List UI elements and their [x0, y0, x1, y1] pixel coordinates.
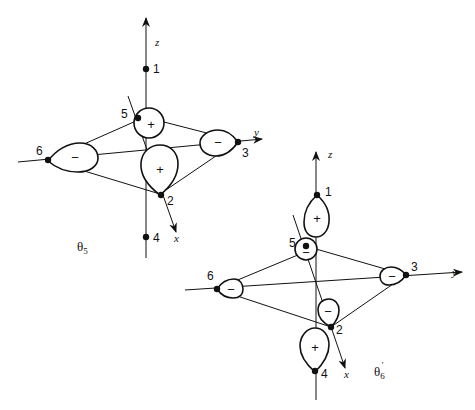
svg-text:5: 5: [289, 236, 296, 250]
diagram-theta6-prime: z y x + − − −: [185, 148, 462, 400]
diagram-title-theta6-prime: θ6': [374, 360, 385, 381]
svg-text:+: +: [147, 117, 155, 132]
svg-text:4: 4: [153, 231, 160, 245]
svg-text:3: 3: [242, 146, 249, 160]
svg-text:6: 6: [207, 269, 214, 283]
diagram-title-theta5: θ5: [77, 239, 88, 256]
x-axis-label: x: [173, 232, 179, 244]
svg-text:+: +: [311, 340, 319, 355]
node-4: 4: [312, 367, 328, 381]
edges: [216, 249, 406, 327]
svg-text:6: 6: [36, 144, 43, 158]
lobe-3: −: [380, 267, 406, 285]
svg-text:1: 1: [153, 62, 160, 76]
node-2: 2: [158, 192, 174, 208]
orbital-diagrams: z y x + + − −: [0, 0, 475, 410]
svg-text:3: 3: [411, 260, 418, 274]
svg-text:−: −: [388, 269, 396, 284]
svg-text:−: −: [324, 304, 332, 319]
node-2: 2: [328, 323, 343, 337]
svg-text:4: 4: [321, 367, 328, 381]
lobe-1: +: [304, 195, 329, 237]
svg-text:+: +: [156, 162, 164, 177]
diagram-theta5: z y x + + − −: [18, 18, 262, 258]
lobe-5: +: [134, 108, 164, 138]
y-axis-label: y: [253, 126, 259, 138]
svg-text:2: 2: [336, 323, 343, 337]
svg-text:2: 2: [167, 194, 174, 208]
lobe-4: +: [300, 328, 329, 372]
svg-text:5: 5: [121, 107, 128, 121]
node-1: 1: [314, 185, 332, 199]
svg-text:1: 1: [325, 185, 332, 199]
svg-text:−: −: [71, 150, 79, 165]
x-axis-label: x: [343, 368, 349, 380]
node-3: 3: [235, 139, 249, 160]
svg-text:−: −: [214, 135, 222, 150]
lobe-6: −: [217, 279, 243, 298]
z-axis-label: z: [327, 148, 333, 160]
node-1: 1: [143, 62, 160, 76]
z-axis-label: z: [154, 36, 160, 48]
node-4: 4: [143, 231, 160, 245]
svg-text:+: +: [313, 211, 321, 226]
y-axis-label: y: [451, 266, 457, 278]
lobe-6: −: [48, 143, 98, 172]
lobe-3: −: [200, 130, 238, 156]
svg-text:−: −: [227, 282, 235, 297]
